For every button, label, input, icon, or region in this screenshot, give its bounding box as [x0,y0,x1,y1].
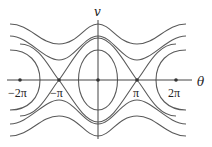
tick-neg-2pi: −2π [8,86,27,100]
tick-pi: π [133,86,139,100]
theta-axis-label: θ [197,75,205,89]
tick-2pi: 2π [168,86,180,100]
equilibrium-2pi [174,78,178,82]
equilibrium-pi [135,78,139,82]
phase-portrait: v θ −2π −π π 2π [0,0,212,147]
v-axis-label: v [94,5,101,19]
equilibrium-neg-pi [57,78,61,82]
equilibrium-origin [96,78,100,82]
equilibrium-neg-2pi [18,78,22,82]
tick-neg-pi: −π [50,86,63,100]
